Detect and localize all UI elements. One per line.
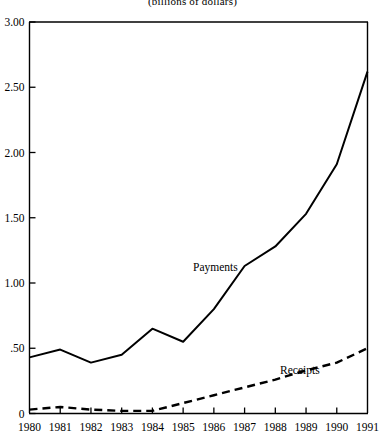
- x-tick-label: 1989: [295, 421, 318, 433]
- x-axis-ticks: 1980198119821983198419851986198719881989…: [18, 408, 379, 433]
- series-label-group: PaymentsReceipts: [193, 261, 320, 377]
- x-tick-label: 1986: [202, 421, 225, 433]
- series-label-payments: Payments: [193, 261, 238, 274]
- x-tick-label: 1983: [110, 421, 133, 433]
- x-tick-label: 1991: [356, 421, 379, 433]
- y-tick-label: 0: [19, 408, 25, 420]
- x-tick-label: 1980: [18, 421, 41, 433]
- chart-container: (billions of dollars) 0.501.001.502.002.…: [0, 0, 385, 439]
- y-tick-label: 2.50: [4, 81, 24, 93]
- y-axis-ticks: 0.501.001.502.002.503.00: [4, 16, 35, 420]
- x-tick-label: 1985: [172, 421, 195, 433]
- x-tick-label: 1990: [325, 421, 348, 433]
- y-tick-label: .50: [10, 342, 25, 354]
- y-tick-label: 2.00: [4, 147, 24, 159]
- y-tick-label: 1.00: [4, 277, 24, 289]
- y-tick-label: 1.50: [4, 212, 24, 224]
- x-tick-label: 1987: [233, 421, 256, 433]
- y-tick-label: 3.00: [4, 16, 24, 28]
- series-line-payments: [30, 72, 368, 363]
- line-chart-plot: 0.501.001.502.002.503.00 198019811982198…: [0, 0, 385, 439]
- series-label-receipts: Receipts: [280, 364, 320, 377]
- x-tick-label: 1988: [264, 421, 287, 433]
- x-tick-label: 1981: [49, 421, 72, 433]
- x-tick-label: 1984: [141, 421, 164, 433]
- plot-frame: [29, 22, 368, 414]
- data-series-group: [30, 72, 368, 411]
- x-tick-label: 1982: [79, 421, 102, 433]
